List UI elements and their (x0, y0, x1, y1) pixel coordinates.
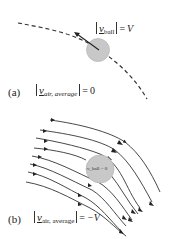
air-speed-label-a: vair, average = 0 (36, 84, 95, 96)
ball-velocity-label: v_ball = 0 (87, 166, 107, 171)
figure-b-stationary-ball: v_ball = 0 (b) vair, average = −V (0, 110, 184, 239)
figure-a-moving-ball: vball = V (a) vair, average = 0 (0, 0, 184, 110)
panel-label-a: (a) (8, 87, 20, 98)
streamline-8 (26, 182, 126, 236)
ball (87, 39, 110, 62)
air-speed-label-b: vair, average = −V (34, 211, 100, 223)
panel-label-b: (b) (8, 214, 21, 225)
ball-speed-label: vball = V (96, 22, 133, 34)
velocity-arrowhead (74, 32, 80, 37)
